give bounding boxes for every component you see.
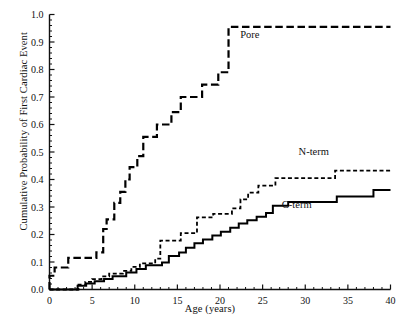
series-line-c-term (50, 190, 391, 290)
series-line-n-term (50, 171, 391, 290)
series-label-n-term: N-term (299, 146, 329, 157)
y-tick-label: 0.7 (31, 92, 44, 103)
x-tick-label: 10 (130, 295, 140, 306)
data-series-group (50, 27, 391, 290)
y-tick-label: 0.6 (31, 119, 44, 130)
series-label-c-term: C-term (282, 199, 312, 210)
y-tick-label: 0.5 (31, 147, 44, 158)
tick-group (50, 15, 391, 290)
x-tick-label: 5 (90, 295, 95, 306)
y-tick-label: 0.2 (31, 229, 44, 240)
axis-group (50, 15, 391, 290)
x-tick-label: 0 (47, 295, 52, 306)
series-line-pore (50, 27, 391, 290)
x-tick-label: 35 (343, 295, 353, 306)
y-tick-label: 0.0 (31, 284, 44, 295)
y-tick-label: 1.0 (31, 9, 44, 20)
y-tick-label: 0.3 (31, 202, 44, 213)
x-tick-label: 30 (300, 295, 310, 306)
y-tick-label: 0.1 (31, 257, 44, 268)
y-tick-label: 0.9 (31, 37, 44, 48)
series-label-pore: Pore (240, 29, 260, 40)
y-tick-label: 0.4 (31, 174, 44, 185)
tick-label-group: 05101520253035400.00.10.20.30.40.50.60.7… (31, 9, 396, 306)
y-axis-title: Cumulative Probability of First Cardiac … (18, 61, 29, 231)
x-axis-title: Age (years) (150, 303, 270, 314)
plot-area: 05101520253035400.00.10.20.30.40.50.60.7… (0, 0, 401, 326)
cumulative-probability-chart: 05101520253035400.00.10.20.30.40.50.60.7… (0, 0, 401, 326)
y-tick-label: 0.8 (31, 64, 44, 75)
x-tick-label: 40 (386, 295, 396, 306)
series-label-group: PoreN-termC-term (240, 29, 329, 211)
